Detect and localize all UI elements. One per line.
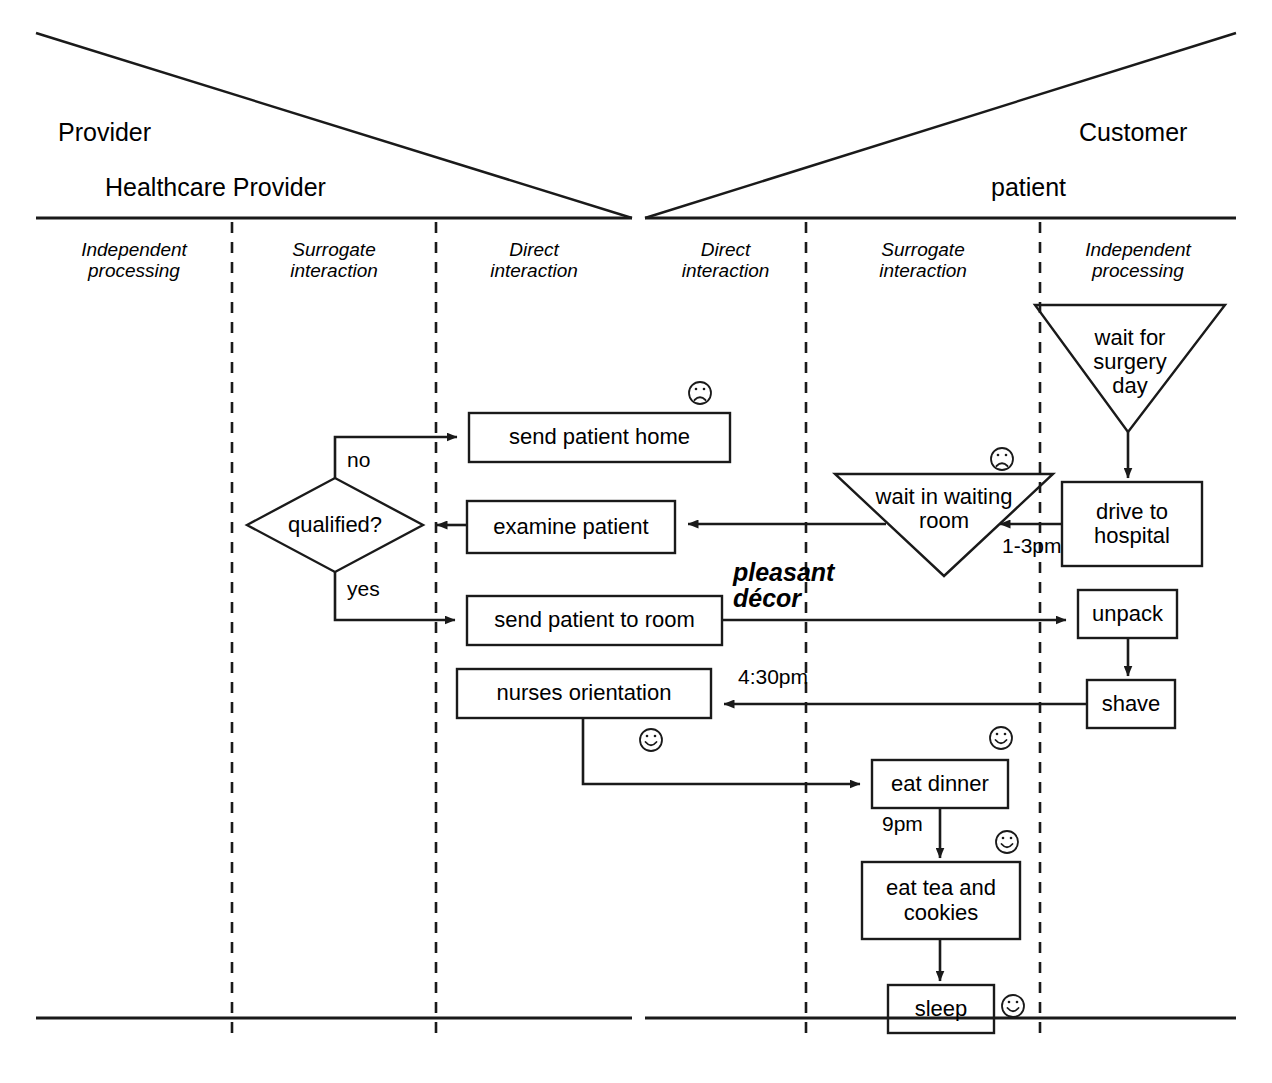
- node-label-wait-for-surgery-day: wait for surgery day: [1060, 312, 1200, 412]
- smile-icon-eat-tea-and-cookies: [996, 831, 1018, 853]
- service-blueprint-diagram: Provider Healthcare Provider Customer pa…: [0, 0, 1272, 1083]
- zone-label-line1: Independent: [1085, 239, 1191, 260]
- zone-customer-direct-interaction: Direct interaction: [645, 232, 806, 288]
- node-line1: wait in waiting: [876, 485, 1013, 509]
- provider-actor-label: Healthcare Provider: [105, 173, 326, 202]
- zone-provider-independent-processing: Independent processing: [36, 232, 232, 288]
- zone-label-line2: processing: [88, 260, 180, 281]
- node-label-nurses-orientation: nurses orientation: [457, 669, 711, 718]
- node-label-sleep: sleep: [888, 985, 994, 1033]
- zone-label-line1: Independent: [81, 239, 187, 260]
- node-label-eat-dinner: eat dinner: [872, 760, 1008, 808]
- edge-label-1-3pm: 1-3pm: [1002, 534, 1062, 558]
- zone-label-line2: interaction: [290, 260, 378, 281]
- edge-label-430pm: 4:30pm: [738, 665, 808, 689]
- node-line2: surgery: [1093, 350, 1166, 374]
- zone-label-line1: Surrogate: [292, 239, 375, 260]
- smile-icon-eat-dinner: [990, 727, 1012, 749]
- edge-label-no: no: [347, 448, 370, 472]
- edge-label-9pm: 9pm: [882, 812, 923, 836]
- annotation-line1: pleasant: [733, 559, 834, 585]
- zone-label-line2: interaction: [490, 260, 578, 281]
- node-label-unpack: unpack: [1078, 590, 1177, 638]
- node-label-drive-to-hospital: drive to hospital: [1062, 482, 1202, 566]
- node-label-shave: shave: [1087, 680, 1175, 728]
- zone-customer-surrogate-interaction: Surrogate interaction: [806, 232, 1040, 288]
- zone-label-line2: processing: [1092, 260, 1184, 281]
- zone-label-line1: Surrogate: [881, 239, 964, 260]
- node-label-send-patient-home: send patient home: [469, 413, 730, 462]
- customer-role-label: Customer: [1079, 118, 1187, 147]
- node-label-qualified: qualified?: [247, 500, 423, 550]
- node-line2: cookies: [904, 901, 979, 925]
- annotation-pleasant-decor: pleasant décor: [733, 559, 834, 612]
- smile-icon-nurses-orientation: [640, 729, 662, 751]
- node-line2: room: [919, 509, 969, 533]
- node-line2: hospital: [1094, 524, 1170, 548]
- node-label-send-patient-to-room: send patient to room: [467, 596, 722, 645]
- node-line1: drive to: [1096, 500, 1168, 524]
- node-label-examine-patient: examine patient: [467, 501, 675, 553]
- node-label-eat-tea-and-cookies: eat tea and cookies: [862, 862, 1020, 939]
- node-label-wait-in-waiting-room: wait in waiting room: [835, 478, 1053, 540]
- zone-provider-surrogate-interaction: Surrogate interaction: [232, 232, 436, 288]
- zone-label-line1: Direct: [509, 239, 559, 260]
- smile-icon-sleep: [1002, 995, 1024, 1017]
- annotation-line2: décor: [733, 585, 834, 611]
- frown-icon-wait-in-waiting-room: [991, 448, 1013, 470]
- node-line3: day: [1112, 374, 1147, 398]
- edge-label-yes: yes: [347, 577, 380, 601]
- zone-label-line2: interaction: [682, 260, 770, 281]
- zone-provider-direct-interaction: Direct interaction: [436, 232, 632, 288]
- frown-icon-send-patient-home: [689, 382, 711, 404]
- customer-actor-label: patient: [991, 173, 1066, 202]
- provider-role-label: Provider: [58, 118, 151, 147]
- edge-nurses-orientation-to-eat-dinner: [583, 718, 860, 784]
- node-line1: wait for: [1095, 326, 1166, 350]
- zone-customer-independent-processing: Independent processing: [1040, 232, 1236, 288]
- zone-label-line1: Direct: [701, 239, 751, 260]
- node-line1: eat tea and: [886, 876, 996, 900]
- zone-label-line2: interaction: [879, 260, 967, 281]
